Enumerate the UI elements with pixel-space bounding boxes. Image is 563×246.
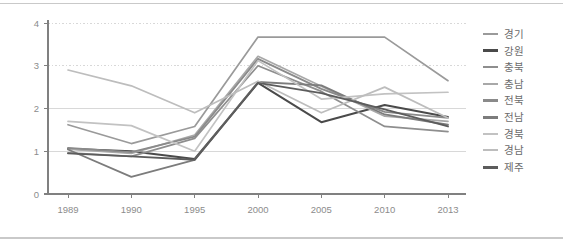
y-tick-label: 0 (34, 189, 39, 200)
x-tick-label: 1989 (57, 204, 78, 215)
legend-swatch-icon (483, 49, 498, 52)
legend-item-label: 경북 (504, 129, 524, 140)
x-tick-label: 2000 (247, 204, 268, 215)
x-tick-label: 2005 (311, 204, 332, 215)
legend-swatch-icon (483, 83, 498, 85)
legend-item-label: 경기 (504, 29, 524, 40)
legend-item-2[interactable]: 충북 (483, 59, 559, 76)
legend-swatch-icon (483, 116, 498, 119)
chart-figure: 01234 1989199019952000200520102013 경기강원충… (0, 0, 563, 246)
line-chart-svg: 01234 1989199019952000200520102013 (0, 0, 563, 246)
legend-item-label: 강원 (504, 46, 524, 57)
x-tick-label: 2013 (437, 204, 458, 215)
y-tick-label: 2 (34, 103, 39, 114)
legend-swatch-icon (483, 133, 498, 135)
legend-swatch-icon (483, 33, 498, 35)
legend-item-label: 충남 (504, 79, 524, 90)
data-series-group (68, 37, 448, 177)
y-tick-label: 4 (34, 18, 39, 29)
legend-item-label: 경남 (504, 145, 524, 156)
legend-item-3[interactable]: 충남 (483, 76, 559, 93)
x-tick-label: 1990 (121, 204, 142, 215)
legend-item-0[interactable]: 경기 (483, 26, 559, 43)
legend-swatch-icon (483, 166, 498, 169)
legend-item-label: 제주 (504, 162, 524, 173)
x-axis-line-group (44, 194, 466, 198)
series-line (68, 56, 448, 153)
legend-item-6[interactable]: 경북 (483, 126, 559, 143)
y-tick-labels-group: 01234 (34, 18, 48, 200)
legend-item-1[interactable]: 강원 (483, 43, 559, 60)
legend-swatch-icon (483, 99, 498, 102)
series-line (68, 82, 448, 177)
x-tick-label: 2010 (374, 204, 395, 215)
x-tick-labels-group: 1989199019952000200520102013 (57, 204, 458, 215)
plot-area: 01234 1989199019952000200520102013 (0, 0, 563, 246)
legend-item-label: 전북 (504, 95, 524, 106)
legend-item-5[interactable]: 전남 (483, 109, 559, 126)
legend-item-8[interactable]: 제주 (483, 159, 559, 176)
chart-legend: 경기강원충북충남전북전남경북경남제주 (483, 26, 559, 175)
x-tick-label: 1995 (184, 204, 205, 215)
legend-item-label: 전남 (504, 112, 524, 123)
legend-swatch-icon (483, 66, 498, 68)
legend-item-4[interactable]: 전북 (483, 92, 559, 109)
legend-swatch-icon (483, 149, 498, 151)
legend-item-7[interactable]: 경남 (483, 142, 559, 159)
y-tick-label: 3 (34, 60, 39, 71)
legend-item-label: 충북 (504, 62, 524, 73)
y-tick-label: 1 (34, 146, 39, 157)
